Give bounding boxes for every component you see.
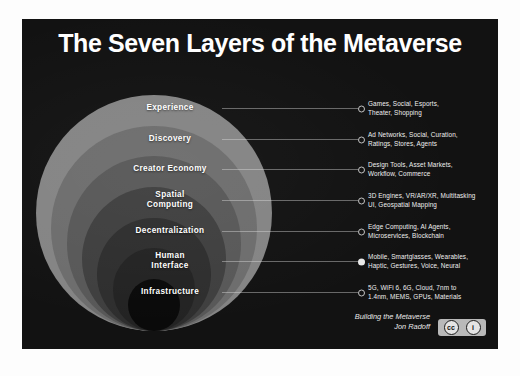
layer-label-spatial-computing: Spatial Computing (147, 190, 193, 209)
leader-line (222, 261, 358, 262)
leader-marker (358, 290, 365, 297)
leader-line (222, 108, 358, 109)
leader-marker (358, 259, 365, 266)
layer-description: Ad Networks, Social, Curation, Ratings, … (368, 130, 498, 148)
leader-marker (358, 198, 365, 205)
leader-line (222, 169, 358, 170)
creative-commons-badge: cci (438, 319, 486, 336)
layer-description: Edge Computing, AI Agents, Microservices… (368, 222, 498, 240)
leader-line (222, 200, 358, 201)
attribution-icon: i (466, 320, 481, 335)
layer-label-discovery: Discovery (149, 134, 191, 144)
layer-description: Mobile, Smartglasses, Wearables, Haptic,… (368, 252, 498, 270)
leader-marker (358, 228, 365, 235)
layer-description: 3D Engines, VR/AR/XR, Multitasking UI, G… (368, 191, 498, 209)
leader-line (222, 139, 358, 140)
infographic-panel: The Seven Layers of the Metaverse Experi… (22, 19, 498, 349)
layer-label-experience: Experience (146, 103, 193, 113)
layer-label-human-interface: Human Interface (151, 252, 188, 271)
poster-page: The Seven Layers of the Metaverse Experi… (0, 0, 520, 376)
leader-marker (358, 106, 365, 113)
leader-line (222, 231, 358, 232)
leader-marker (358, 136, 365, 143)
layer-description: Design Tools, Asset Markets, Workflow, C… (368, 160, 498, 178)
layer-label-infrastructure: Infrastructure (141, 287, 199, 297)
layer-description: 5G, WiFi 6, 6G, Cloud, 7nm to 1.4nm, MEM… (368, 283, 498, 301)
layer-description: Games, Social, Esports, Theater, Shoppin… (368, 99, 498, 117)
leader-line (222, 292, 358, 293)
credit-author: Jon Radoff (355, 322, 430, 333)
credit-block: Building the MetaverseJon Radoff (355, 312, 430, 333)
layer-label-creator-economy: Creator Economy (133, 164, 207, 174)
leader-marker (358, 167, 365, 174)
creative-commons-icon: cc (444, 320, 459, 335)
nested-circles-diagram: ExperienceGames, Social, Esports, Theate… (22, 19, 498, 349)
credit-book-title: Building the Metaverse (355, 312, 430, 323)
layer-label-decentralization: Decentralization (136, 226, 205, 236)
